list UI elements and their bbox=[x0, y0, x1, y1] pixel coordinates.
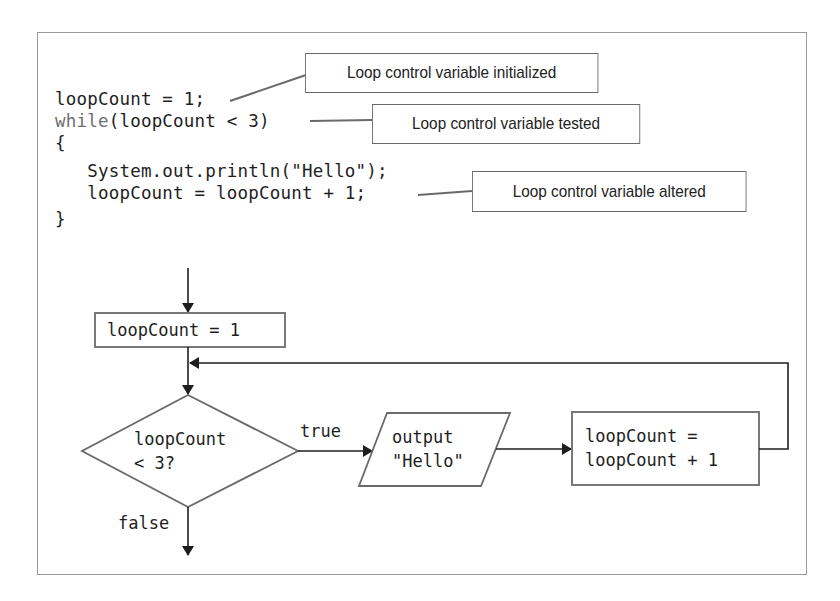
callout-altered: Loop control variable altered bbox=[472, 171, 747, 212]
output-label-line2: "Hello" bbox=[392, 449, 464, 473]
increment-label-line2: loopCount + 1 bbox=[585, 448, 718, 472]
leader-line-tested bbox=[310, 120, 372, 121]
callout-initialized: Loop control variable initialized bbox=[305, 53, 598, 93]
output-label-line1: output bbox=[392, 425, 453, 449]
leader-line-altered bbox=[418, 191, 472, 195]
decision-label-line1: loopCount bbox=[134, 427, 226, 451]
init-box-label: loopCount = 1 bbox=[107, 318, 240, 342]
callout-tested: Loop control variable tested bbox=[372, 104, 640, 144]
increment-label-line1: loopCount = bbox=[585, 424, 698, 448]
decision-label-line2: < 3? bbox=[134, 451, 175, 475]
true-label: true bbox=[300, 419, 341, 443]
false-label: false bbox=[118, 511, 169, 535]
decision-diamond-shape bbox=[82, 395, 298, 507]
leader-line-initialized bbox=[230, 75, 306, 101]
